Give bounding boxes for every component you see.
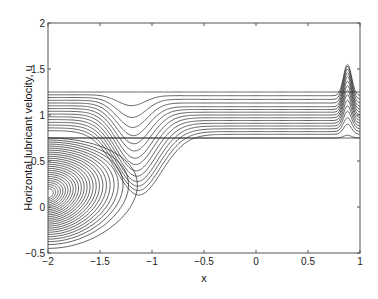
x-tick-label: 1 <box>357 256 363 267</box>
y-tick-label: 2 <box>39 18 45 29</box>
x-tick-label: −1.5 <box>90 256 110 267</box>
x-tick-label: −1 <box>146 256 158 267</box>
line-chart: −2−1.5−1−0.500.51 −0.500.511.52 x Horizo… <box>0 0 378 299</box>
x-tick-label: −0.5 <box>194 256 214 267</box>
y-tick-label: −0.5 <box>25 248 45 259</box>
x-axis-label: x <box>201 272 207 284</box>
y-axis-label: Horizontal lubricant velocity, u <box>22 65 34 210</box>
y-tick-label: 1 <box>39 110 45 121</box>
x-tick-label: 0.5 <box>301 256 315 267</box>
y-tick-label: 0 <box>39 202 45 213</box>
x-tick-label: 0 <box>253 256 259 267</box>
figure-background <box>0 0 378 299</box>
